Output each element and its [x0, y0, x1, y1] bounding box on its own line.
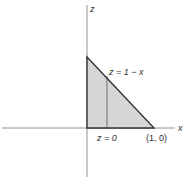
hypotenuse-label: z = 1 − x — [109, 68, 144, 77]
x-axis-label: x — [178, 124, 183, 133]
z-axis-label: z — [90, 5, 95, 14]
diagram-canvas — [0, 0, 193, 187]
point-label: (1, 0) — [146, 134, 167, 143]
base-label: z = 0 — [97, 134, 117, 143]
